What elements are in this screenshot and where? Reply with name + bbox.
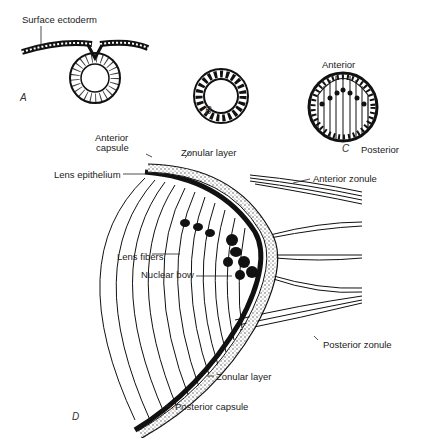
label-lens-epithelium: Lens epithelium [54, 170, 121, 180]
label-anterior-capsule-line2: capsule [96, 143, 129, 153]
panel-label-a: A [20, 92, 27, 103]
label-surface-ectoderm: Surface ectoderm [22, 15, 97, 25]
label-lens-fibers: Lens fibers [117, 252, 163, 262]
panel-label-d: D [72, 411, 79, 422]
label-zonular-layer-top: Zonular layer [181, 148, 236, 158]
panel-label-c: C [342, 143, 349, 154]
lens-development-figure: Surface ectoderm A B Anterior C Posterio… [0, 0, 441, 438]
label-anterior: Anterior [322, 60, 355, 70]
label-zonular-layer-bottom: Zonular layer [216, 372, 271, 382]
panel-a-drawing [22, 43, 148, 103]
label-posterior: Posterior [361, 145, 399, 155]
panel-d-drawing [100, 164, 362, 438]
label-posterior-zonule: Posterior zonule [323, 340, 392, 350]
label-nuclear-bow: Nuclear bow [141, 270, 194, 280]
panel-c-drawing [309, 73, 377, 141]
label-anterior-zonule: Anterior zonule [313, 174, 377, 184]
label-posterior-capsule: Posterior capsule [175, 402, 248, 412]
panel-label-b: B [205, 105, 212, 116]
panel-b-drawing [194, 69, 248, 123]
